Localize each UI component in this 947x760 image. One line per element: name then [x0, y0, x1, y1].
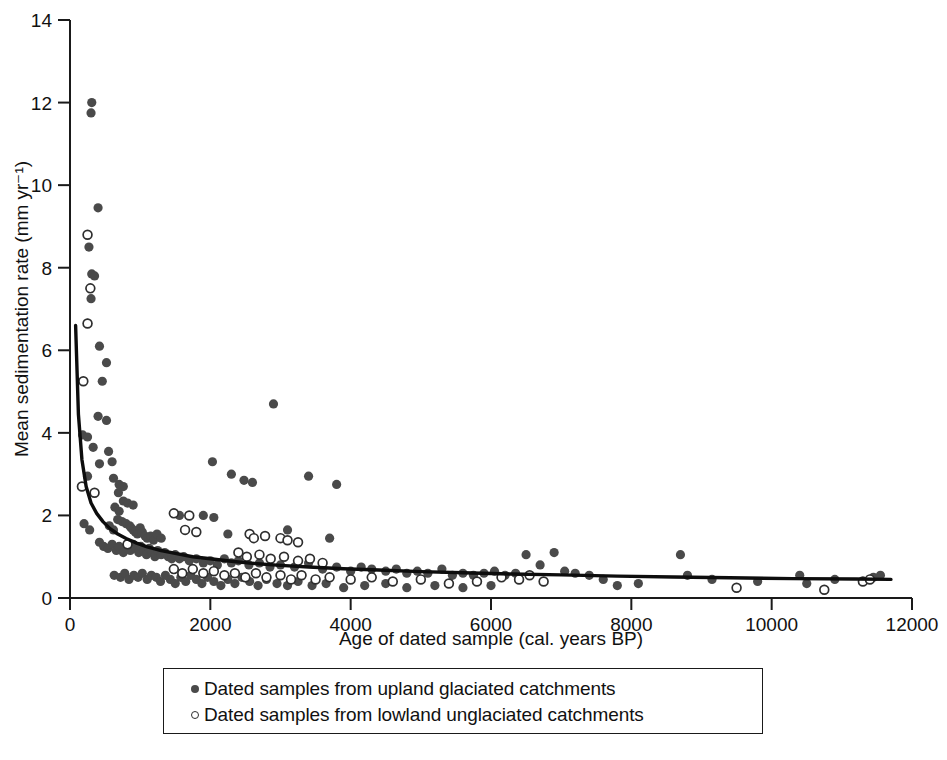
data-point-upland	[227, 470, 236, 479]
legend-item-label: Dated samples from lowland unglaciated c…	[204, 704, 644, 726]
data-point-lowland	[169, 565, 178, 574]
data-point-upland	[458, 583, 467, 592]
data-point-lowland	[297, 571, 306, 580]
y-tick-label: 8	[41, 258, 52, 279]
series-upland-glaciated	[78, 98, 885, 592]
data-point-lowland	[169, 509, 178, 518]
data-point-lowland	[220, 571, 229, 580]
data-point-upland	[248, 478, 257, 487]
data-point-upland	[304, 472, 313, 481]
data-point-lowland	[209, 567, 218, 576]
data-point-lowland	[416, 575, 425, 584]
data-point-upland	[86, 294, 95, 303]
data-point-upland	[129, 501, 138, 510]
data-point-upland	[89, 443, 98, 452]
data-point-lowland	[311, 575, 320, 584]
legend: Dated samples from upland glaciated catc…	[163, 668, 763, 734]
data-point-upland	[283, 525, 292, 534]
data-point-lowland	[294, 556, 303, 565]
data-point-lowland	[445, 579, 454, 588]
data-point-upland	[521, 550, 530, 559]
data-point-lowland	[252, 569, 261, 578]
y-tick-label: 12	[31, 93, 52, 114]
data-point-upland	[430, 581, 439, 590]
data-point-lowland	[539, 577, 548, 586]
data-point-lowland	[283, 536, 292, 545]
y-tick-label: 6	[41, 340, 52, 361]
data-point-upland	[208, 457, 217, 466]
data-point-lowland	[79, 377, 88, 386]
data-point-lowland	[185, 511, 194, 520]
data-point-lowland	[287, 575, 296, 584]
data-point-upland	[613, 581, 622, 590]
data-point-lowland	[280, 552, 289, 561]
data-point-lowland	[234, 548, 243, 557]
chart-canvas: 02468101214 020004000600080001000012000 …	[0, 0, 947, 760]
data-point-upland	[223, 529, 232, 538]
data-point-upland	[550, 548, 559, 557]
data-point-upland	[90, 271, 99, 280]
data-point-upland	[325, 534, 334, 543]
data-point-upland	[104, 447, 113, 456]
data-point-lowland	[266, 554, 275, 563]
legend-item-upland: Dated samples from upland glaciated catc…	[186, 676, 762, 702]
data-point-upland	[360, 581, 369, 590]
data-point-lowland	[276, 571, 285, 580]
data-point-upland	[95, 342, 104, 351]
data-point-lowland	[86, 284, 95, 293]
y-tick-label: 0	[41, 588, 52, 609]
legend-item-lowland: Dated samples from lowland unglaciated c…	[186, 702, 762, 728]
data-point-upland	[93, 203, 102, 212]
x-tick-label: 0	[65, 614, 76, 635]
data-point-upland	[402, 583, 411, 592]
data-point-lowland	[325, 573, 334, 582]
data-point-upland	[86, 108, 95, 117]
data-point-upland	[332, 480, 341, 489]
data-point-upland	[95, 459, 104, 468]
data-point-lowland	[261, 532, 270, 541]
x-tick-label: 12000	[886, 614, 939, 635]
data-point-lowland	[178, 569, 187, 578]
fit-curve	[76, 326, 891, 580]
data-point-lowland	[306, 554, 315, 563]
y-axis-title: Mean sedimentation rate (mm yr⁻¹)	[11, 161, 32, 457]
data-point-upland	[239, 476, 248, 485]
data-point-upland	[536, 560, 545, 569]
data-point-lowland	[732, 583, 741, 592]
data-points	[78, 98, 885, 594]
data-point-upland	[339, 583, 348, 592]
data-point-upland	[102, 416, 111, 425]
data-point-lowland	[367, 573, 376, 582]
data-point-upland	[93, 412, 102, 421]
axes	[70, 20, 912, 598]
filled-circle-icon	[186, 685, 204, 693]
figure-scatter-sedimentation-rate: 02468101214 020004000600080001000012000 …	[0, 0, 947, 760]
data-point-upland	[87, 98, 96, 107]
open-circle-icon	[186, 711, 204, 719]
data-point-lowland	[346, 575, 355, 584]
data-point-lowland	[820, 585, 829, 594]
y-axis-ticks: 02468101214	[31, 10, 70, 609]
data-point-lowland	[90, 488, 99, 497]
x-tick-label: 10000	[745, 614, 798, 635]
data-point-lowland	[255, 550, 264, 559]
data-point-lowland	[230, 569, 239, 578]
data-point-lowland	[199, 569, 208, 578]
data-point-lowland	[83, 319, 92, 328]
data-point-upland	[253, 581, 262, 590]
data-point-lowland	[241, 573, 250, 582]
data-point-lowland	[473, 577, 482, 586]
data-point-upland	[209, 513, 218, 522]
data-point-upland	[230, 579, 239, 588]
data-point-lowland	[181, 525, 190, 534]
data-point-upland	[676, 550, 685, 559]
data-point-lowland	[262, 573, 271, 582]
data-point-lowland	[515, 575, 524, 584]
data-point-lowland	[83, 230, 92, 239]
data-point-lowland	[249, 534, 258, 543]
data-point-upland	[486, 581, 495, 590]
y-tick-label: 10	[31, 175, 52, 196]
data-point-lowland	[188, 565, 197, 574]
data-point-upland	[216, 581, 225, 590]
data-point-upland	[114, 488, 123, 497]
